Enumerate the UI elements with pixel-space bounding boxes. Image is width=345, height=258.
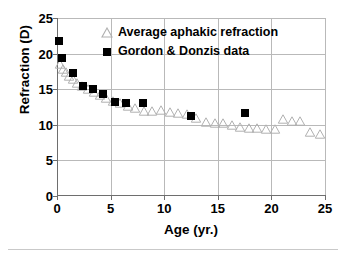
y-axis-tick-label: 10 bbox=[39, 118, 53, 131]
legend-item-average: Average aphakic refraction bbox=[100, 24, 315, 41]
legend-item-gordon: Gordon & Donzis data bbox=[100, 43, 315, 60]
data-point-gordon bbox=[79, 82, 87, 90]
data-point-gordon bbox=[187, 112, 195, 120]
y-axis-tick-label: 25 bbox=[39, 12, 53, 25]
chart-figure: Refraction (D) 0510152025 0510152025 Age… bbox=[0, 0, 345, 258]
y-axis-tick-label: 5 bbox=[46, 154, 53, 167]
y-axis-tick bbox=[53, 125, 58, 126]
data-point-gordon bbox=[69, 69, 77, 77]
data-point-gordon bbox=[122, 99, 130, 107]
gridline-vertical bbox=[325, 18, 326, 196]
x-axis-tick bbox=[218, 195, 219, 200]
data-point-gordon bbox=[241, 109, 249, 117]
x-axis-tick-label: 0 bbox=[53, 202, 60, 215]
data-point-gordon bbox=[139, 99, 147, 107]
x-axis-tick bbox=[271, 195, 272, 200]
x-axis-tick-label: 5 bbox=[107, 202, 114, 215]
data-point-gordon bbox=[111, 98, 119, 106]
legend-label-average: Average aphakic refraction bbox=[118, 26, 278, 39]
x-axis-tick bbox=[111, 195, 112, 200]
x-axis-tick bbox=[57, 195, 58, 200]
gridline-horizontal bbox=[57, 125, 325, 126]
data-point-average bbox=[314, 129, 325, 139]
data-point-average bbox=[269, 124, 280, 134]
footer-divider bbox=[8, 249, 338, 250]
y-axis-tick bbox=[53, 160, 58, 161]
y-axis-tick bbox=[53, 89, 58, 90]
y-axis-tick bbox=[53, 54, 58, 55]
x-axis-line bbox=[57, 195, 325, 196]
x-axis-tick-label: 20 bbox=[264, 202, 278, 215]
x-axis-tick-labels: 0510152025 bbox=[57, 202, 325, 218]
gridline-horizontal bbox=[57, 18, 325, 19]
y-axis-tick-label: 15 bbox=[39, 83, 53, 96]
data-point-gordon bbox=[58, 54, 66, 62]
y-axis-tick-label: 20 bbox=[39, 47, 53, 60]
data-point-gordon bbox=[99, 90, 107, 98]
x-axis-tick bbox=[325, 195, 326, 200]
data-point-gordon bbox=[89, 85, 97, 93]
y-axis-tick-labels: 0510152025 bbox=[26, 18, 53, 196]
gridline-horizontal bbox=[57, 160, 325, 161]
x-axis-tick-label: 25 bbox=[318, 202, 332, 215]
x-axis-title: Age (yr.) bbox=[57, 222, 325, 237]
y-axis-tick-label: 0 bbox=[46, 190, 53, 203]
x-axis-tick-label: 10 bbox=[157, 202, 171, 215]
chart-legend: Average aphakic refraction Gordon & Donz… bbox=[100, 24, 315, 62]
x-axis-tick-label: 15 bbox=[211, 202, 225, 215]
data-point-gordon bbox=[55, 37, 63, 45]
filled-square-icon bbox=[100, 46, 114, 58]
open-triangle-icon bbox=[100, 27, 114, 39]
data-point-average bbox=[295, 116, 306, 126]
y-axis-tick bbox=[53, 18, 58, 19]
x-axis-tick bbox=[164, 195, 165, 200]
legend-label-gordon: Gordon & Donzis data bbox=[118, 45, 249, 58]
